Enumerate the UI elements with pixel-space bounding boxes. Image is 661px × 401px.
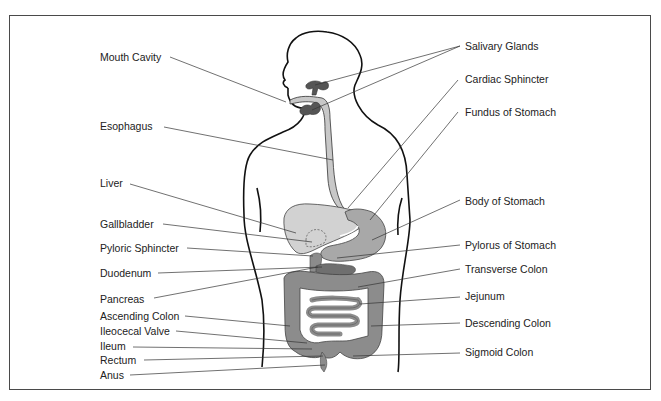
label-jejunum: Jejunum [465, 291, 505, 302]
label-cardiac-sphincter: Cardiac Sphincter [465, 74, 548, 85]
label-rectum: Rectum [100, 355, 136, 366]
label-pancreas: Pancreas [100, 294, 144, 305]
label-duodenum: Duodenum [100, 268, 151, 279]
label-salivary-glands: Salivary Glands [465, 41, 539, 52]
label-gallbladder: Gallbladder [100, 219, 154, 230]
label-body-of-stomach: Body of Stomach [465, 196, 545, 207]
label-liver: Liver [100, 178, 123, 189]
label-sigmoid-colon: Sigmoid Colon [465, 347, 533, 358]
label-ileum: Ileum [100, 341, 126, 352]
label-transverse-colon: Transverse Colon [465, 264, 547, 275]
label-descending-colon: Descending Colon [465, 318, 551, 329]
label-anus: Anus [100, 370, 124, 381]
label-pyloric-sphincter: Pyloric Sphincter [100, 243, 179, 254]
label-mouth-cavity: Mouth Cavity [100, 52, 161, 63]
label-esophagus: Esophagus [100, 121, 153, 132]
esophagus-shape [290, 96, 352, 215]
label-ileocecal-valve: Ileocecal Valve [100, 326, 170, 337]
label-pylorus-of-stomach: Pylorus of Stomach [465, 240, 556, 251]
label-fundus-of-stomach: Fundus of Stomach [465, 107, 556, 118]
label-ascending-colon: Ascending Colon [100, 311, 179, 322]
